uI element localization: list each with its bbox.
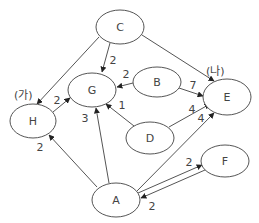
edge-weight-h-g: 2 [54,94,61,107]
node-c: C [96,10,144,44]
node-label: B [153,76,161,89]
node-label: A [112,194,120,207]
node-b: B [133,67,181,97]
edge-a-to-h [49,135,97,187]
node-label: H [29,115,37,128]
edge-weight-d-g: 1 [119,99,126,112]
edge-weight-b-e: 7 [190,79,197,92]
edge-weight-b-g: 2 [123,68,130,81]
node-label: G [88,84,97,97]
edge-weight-d-e: 4 [189,103,196,116]
annotation-na: (나) [206,65,225,78]
edge-weight-c-g: 2 [110,54,117,67]
node-label: C [116,21,124,34]
node-label: E [224,91,231,104]
edge-weight-a-h: 2 [37,141,44,154]
node-label: F [222,155,228,168]
node-g: G [68,73,116,107]
node-e: E [203,79,251,115]
edge-weight-f-a: 2 [149,200,156,213]
node-label: D [146,132,154,145]
annotation-ga: (가) [14,89,33,102]
edge-a-to-f [138,165,202,193]
edge-weight-a-f: 2 [186,156,193,169]
node-f: F [201,145,249,177]
node-h: H [10,104,56,138]
node-a: A [92,183,140,217]
edge-weight-a-e: 4 [198,112,205,125]
directed-graph-diagram: 22271432422 CGBEHDFA (가)(나) [0,0,259,223]
edge-b-to-g [117,83,133,87]
edge-a-to-g [96,108,109,183]
nodes-layer: CGBEHDFA [10,10,251,217]
edge-weight-a-g: 3 [82,112,89,125]
node-d: D [126,122,174,154]
edge-f-to-a [141,170,205,198]
